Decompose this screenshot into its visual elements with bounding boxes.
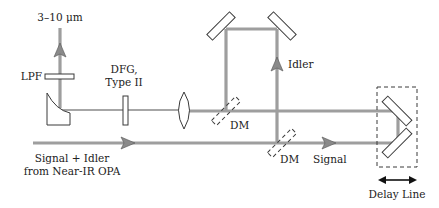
delay-line-double-arrow-icon bbox=[378, 176, 417, 184]
dm2-label: DM bbox=[280, 153, 299, 165]
idler-mirror-left bbox=[207, 12, 235, 40]
long-pass-filter bbox=[45, 74, 74, 79]
idler-mirror-right bbox=[268, 12, 296, 40]
idler-label: Idler bbox=[288, 58, 314, 70]
focusing-lens bbox=[179, 92, 190, 129]
lpf-label: LPF bbox=[21, 70, 42, 82]
dfg-label-line2: Type II bbox=[105, 76, 143, 88]
input-label-line2: from Near-IR OPA bbox=[24, 165, 121, 177]
signal-label: Signal bbox=[313, 153, 347, 165]
delay-line-label: Delay Line bbox=[369, 188, 426, 200]
optical-setup-diagram: 3–10 μm LPF DFG, Type II Idler DM DM Sig… bbox=[0, 0, 439, 208]
dfg-crystal bbox=[123, 96, 128, 125]
dfg-label-line1: DFG, bbox=[110, 63, 137, 75]
dm1-label: DM bbox=[230, 119, 249, 131]
input-label-line1: Signal + Idler bbox=[35, 152, 111, 164]
beam-paths bbox=[33, 28, 398, 143]
output-wavelength-label: 3–10 μm bbox=[37, 11, 82, 23]
